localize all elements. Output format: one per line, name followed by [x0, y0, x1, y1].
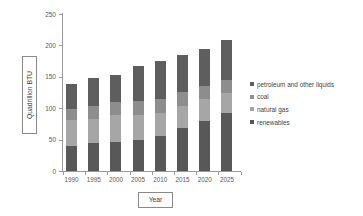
y-axis-tick-label: 0: [34, 168, 56, 175]
bar-segment-coal: [155, 99, 166, 113]
bar-segment-coal: [66, 109, 77, 120]
y-axis-title: Quadrillion BTU: [22, 56, 37, 134]
x-axis-tick-mark: [85, 172, 86, 175]
bar-segment-petroleum-and-other-liquids: [221, 40, 232, 80]
bar-segment-renewables: [133, 140, 144, 171]
bar-segment-renewables: [155, 136, 166, 171]
bar-segment-natural-gas: [133, 115, 144, 140]
bar-segment-petroleum-and-other-liquids: [66, 84, 77, 109]
legend-item-label: coal: [257, 93, 269, 100]
bar-chart: 050100150200250 199019952000200520102015…: [0, 0, 363, 216]
x-axis-tick-mark: [196, 172, 197, 175]
bar-segment-renewables: [88, 143, 99, 171]
bar-segment-petroleum-and-other-liquids: [199, 49, 210, 86]
bar-segment-natural-gas: [66, 120, 77, 146]
legend-swatch-icon: [250, 95, 254, 99]
bar-segment-natural-gas: [221, 93, 232, 113]
x-axis-tick-label: 2025: [214, 176, 240, 183]
bar-segment-renewables: [66, 146, 77, 171]
x-axis-tick-mark: [107, 172, 108, 175]
legend-item[interactable]: renewables: [250, 116, 363, 129]
legend-item[interactable]: natural gas: [250, 103, 363, 116]
bar-segment-renewables: [110, 142, 121, 171]
bar-1990[interactable]: [66, 84, 77, 171]
legend-item-label: renewables: [257, 119, 290, 126]
bar-segment-coal: [177, 92, 188, 106]
bar-segment-natural-gas: [110, 115, 121, 142]
y-axis-tick-label: 250: [34, 11, 56, 18]
bar-segment-petroleum-and-other-liquids: [177, 55, 188, 92]
legend-item-label: natural gas: [257, 106, 289, 113]
legend-swatch-icon: [250, 120, 254, 124]
bar-segment-petroleum-and-other-liquids: [133, 66, 144, 101]
bar-segment-natural-gas: [177, 106, 188, 127]
x-axis-tick-mark: [241, 172, 242, 175]
y-axis-tick-label: 200: [34, 42, 56, 49]
bar-segment-petroleum-and-other-liquids: [110, 75, 121, 102]
legend-swatch-icon: [250, 107, 254, 111]
y-axis-title-label: Quadrillion BTU: [26, 57, 34, 133]
bar-segment-coal: [110, 102, 121, 115]
bar-2010[interactable]: [155, 61, 166, 171]
legend-swatch-icon: [250, 82, 254, 86]
legend-item-label: petroleum and other liquids: [257, 81, 334, 88]
bar-segment-renewables: [177, 128, 188, 171]
bar-segment-coal: [88, 106, 99, 119]
y-axis-tick-mark: [59, 45, 62, 46]
bar-2005[interactable]: [133, 66, 144, 171]
y-axis-tick-mark: [59, 108, 62, 109]
bar-segment-renewables: [221, 113, 232, 171]
bar-2020[interactable]: [199, 49, 210, 171]
y-axis-tick-mark: [59, 171, 62, 172]
x-axis-title: Year: [138, 192, 173, 208]
bar-segment-coal: [199, 86, 210, 100]
plot-area: [63, 14, 238, 171]
bar-segment-coal: [133, 101, 144, 115]
bar-segment-petroleum-and-other-liquids: [155, 61, 166, 99]
y-axis-tick-label: 50: [34, 136, 56, 143]
bar-segment-natural-gas: [155, 113, 166, 137]
y-axis-tick-mark: [59, 140, 62, 141]
x-axis-tick-mark: [174, 172, 175, 175]
bar-2000[interactable]: [110, 75, 121, 171]
bar-segment-coal: [221, 80, 232, 93]
bar-2025[interactable]: [221, 40, 232, 171]
legend-item[interactable]: coal: [250, 91, 363, 104]
y-axis-tick-mark: [59, 14, 62, 15]
x-axis-tick-mark: [63, 172, 64, 175]
bar-segment-natural-gas: [88, 119, 99, 143]
bar-segment-petroleum-and-other-liquids: [88, 78, 99, 106]
y-axis-tick-label: 150: [34, 73, 56, 80]
bar-2015[interactable]: [177, 55, 188, 171]
y-axis-tick-label: 100: [34, 105, 56, 112]
x-axis-tick-mark: [130, 172, 131, 175]
bar-segment-renewables: [199, 121, 210, 171]
bar-1995[interactable]: [88, 78, 99, 171]
legend: petroleum and other liquidscoalnatural g…: [250, 78, 363, 128]
x-axis-tick-mark: [152, 172, 153, 175]
bar-segment-natural-gas: [199, 99, 210, 121]
y-axis-tick-mark: [59, 77, 62, 78]
x-axis-tick-mark: [218, 172, 219, 175]
legend-item[interactable]: petroleum and other liquids: [250, 78, 363, 91]
